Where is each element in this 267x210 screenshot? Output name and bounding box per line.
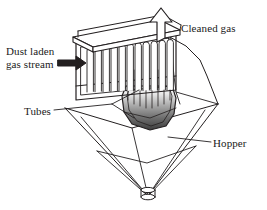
hopper-label: Hopper xyxy=(213,137,247,150)
cleaned-gas-label: Cleaned gas xyxy=(181,22,236,35)
tubes-label: Tubes xyxy=(24,105,51,118)
figure-canvas: Dust laden gas stream Cleaned gas Tubes … xyxy=(0,0,267,210)
dust-inlet-arrow-icon xyxy=(58,56,86,70)
dust-laden-gas-stream-label: Dust laden gas stream xyxy=(6,45,54,71)
